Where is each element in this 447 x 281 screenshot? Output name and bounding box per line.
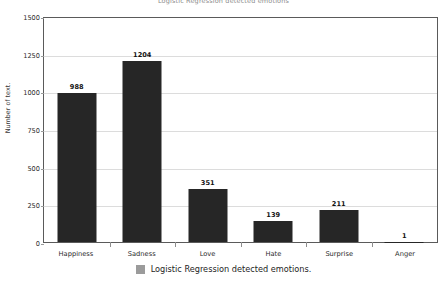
x-tick-mark	[372, 242, 373, 247]
chart-title: Logistic Regression detected emotions	[0, 0, 447, 6]
bar[interactable]	[57, 93, 96, 242]
y-tick-label: 500	[0, 165, 40, 173]
chart-root: Logistic Regression detected emotions Nu…	[0, 0, 447, 281]
y-tick-label: 750	[0, 127, 40, 135]
x-tick-label: Happiness	[43, 250, 109, 258]
bar-value-label: 988	[70, 83, 84, 91]
bar-value-label: 139	[266, 211, 280, 219]
x-tick-mark	[110, 242, 111, 247]
x-tick-label: Love	[175, 250, 241, 258]
y-tick-label: 1250	[0, 52, 40, 60]
bar[interactable]	[188, 189, 227, 242]
bar-group[interactable]: 211	[306, 18, 372, 242]
x-tick-label: Sadness	[109, 250, 175, 258]
x-tick-label: Hate	[240, 250, 306, 258]
y-tick-label: 0	[0, 240, 40, 248]
y-tick-label: 1500	[0, 14, 40, 22]
bar-value-label: 351	[201, 179, 215, 187]
bar[interactable]	[123, 61, 162, 242]
legend-label: Logistic Regression detected emotions.	[151, 264, 312, 274]
bar-group[interactable]: 351	[175, 18, 241, 242]
x-tick-label: Surprise	[306, 250, 372, 258]
bar-group[interactable]: 1204	[110, 18, 176, 242]
bar-series: 98812043511392111	[44, 18, 437, 242]
bar-group[interactable]: 988	[44, 18, 110, 242]
x-tick-mark	[306, 242, 307, 247]
legend-swatch-icon	[136, 265, 145, 274]
x-tick-label: Anger	[372, 250, 438, 258]
x-tick-mark	[241, 242, 242, 247]
bar-value-label: 1	[402, 232, 407, 240]
y-tick-label: 1000	[0, 89, 40, 97]
y-tick-label: 250	[0, 202, 40, 210]
bar[interactable]	[254, 221, 293, 242]
bar-group[interactable]: 139	[241, 18, 307, 242]
y-tick-mark	[41, 244, 44, 245]
bar-value-label: 211	[332, 200, 346, 208]
bar-group[interactable]: 1	[372, 18, 438, 242]
chart-legend: Logistic Regression detected emotions.	[0, 264, 447, 274]
bar-value-label: 1204	[133, 51, 151, 59]
x-tick-mark	[175, 242, 176, 247]
plot-area: 0250500750100012501500 98812043511392111	[43, 17, 438, 243]
x-axis-labels: HappinessSadnessLoveHateSurpriseAnger	[43, 250, 438, 258]
bar[interactable]	[319, 210, 358, 242]
